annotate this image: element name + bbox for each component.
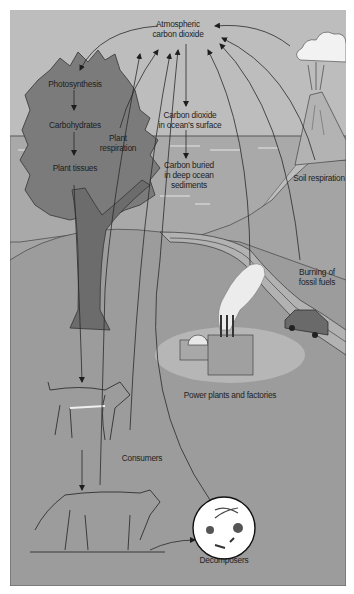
label-carbon-buried: Carbon buried in deep ocean sediments (154, 160, 224, 190)
label-plant-respiration: Plant respiration (93, 133, 143, 153)
label-atmospheric-co2: Atmospheric carbon dioxide (140, 19, 216, 39)
label-co2-ocean-surface: Carbon dioxide in ocean's surface (150, 110, 230, 130)
label-soil-respiration: Soil respiration (288, 173, 346, 183)
label-power-plants: Power plants and factories (180, 390, 280, 400)
label-consumers: Consumers (114, 453, 170, 463)
label-burning-fossil-fuels: Burning of fossil fuels (292, 267, 342, 287)
label-plant-tissues: Plant tissues (40, 163, 110, 173)
label-photosynthesis: Photosynthesis (40, 79, 110, 89)
label-carbohydrates: Carbohydrates (40, 120, 110, 130)
carbon-cycle-diagram: Atmospheric carbon dioxide Photosynthesi… (10, 10, 346, 586)
decomposers-circle-icon (193, 497, 255, 559)
label-decomposers: Decomposers (190, 555, 258, 565)
